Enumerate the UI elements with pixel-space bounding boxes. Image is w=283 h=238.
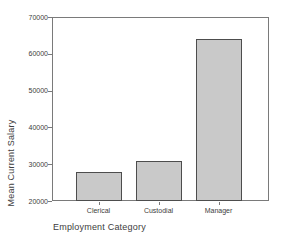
y-tick-mark — [48, 127, 52, 128]
bar-custodial — [136, 161, 182, 201]
y-tick-label: 70000 — [12, 13, 48, 22]
x-tick-mark — [159, 202, 160, 205]
y-tick-label: 40000 — [12, 123, 48, 132]
y-tick-mark — [48, 91, 52, 92]
x-axis-title: Employment Category — [53, 222, 146, 232]
y-tick-mark — [48, 54, 52, 55]
x-tick-label: Clerical — [69, 206, 129, 215]
chart-canvas: Mean Current Salary Employment Category … — [0, 0, 283, 238]
bar-manager — [196, 39, 242, 201]
x-tick-mark — [219, 202, 220, 205]
y-tick-label: 60000 — [12, 49, 48, 58]
y-tick-label: 30000 — [12, 160, 48, 169]
y-tick-label: 20000 — [12, 197, 48, 206]
y-tick-mark — [48, 164, 52, 165]
bar-clerical — [76, 172, 122, 201]
y-tick-mark — [48, 201, 52, 202]
y-tick-mark — [48, 17, 52, 18]
x-tick-mark — [99, 202, 100, 205]
x-tick-label: Custodial — [129, 206, 189, 215]
y-tick-label: 50000 — [12, 86, 48, 95]
x-tick-label: Manager — [189, 206, 249, 215]
